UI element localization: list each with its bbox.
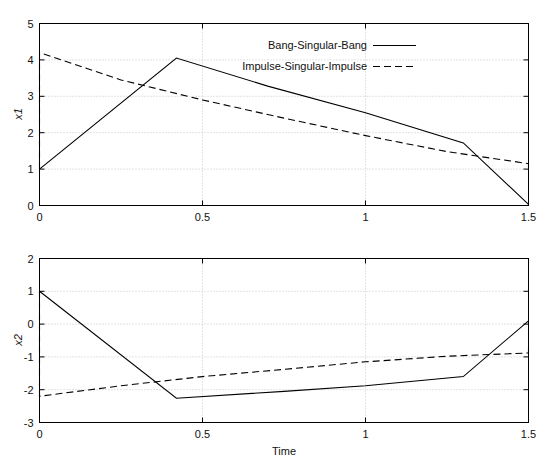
- y-axis-title-x1: x1: [12, 108, 24, 121]
- y-tick-label: -1: [24, 351, 34, 363]
- data-series-solid: [40, 291, 529, 398]
- x-tick-label: 0: [36, 211, 42, 223]
- xtick-labels-x2: 00.511.5: [36, 428, 536, 440]
- y-axis-title-x2: x2: [12, 334, 24, 347]
- y-tick-label: 3: [27, 90, 33, 102]
- y-tick-label: -2: [24, 384, 34, 396]
- tickmarks-x2: [40, 259, 529, 423]
- legend-label-0: Bang-Singular-Bang: [268, 39, 367, 51]
- x-tick-label: 1: [362, 211, 368, 223]
- data-series-solid: [40, 58, 529, 204]
- y-tick-label: 4: [27, 54, 33, 66]
- x-tick-label: 1: [362, 428, 368, 440]
- x-tick-label: 1.5: [521, 428, 536, 440]
- x-tick-label: 0.5: [195, 211, 210, 223]
- subplot-x2: -3-2-1012 00.511.5 x2 Time: [12, 253, 536, 458]
- x-tick-label: 1.5: [521, 211, 536, 223]
- legend-label-1: Impulse-Singular-Impulse: [242, 60, 367, 72]
- axis-frame-x2: [40, 259, 529, 423]
- y-tick-label: -3: [24, 417, 34, 429]
- legend: Bang-Singular-Bang Impulse-Singular-Impu…: [242, 39, 416, 72]
- data-series-dashed: [40, 291, 529, 396]
- ytick-labels-x1: 012345: [27, 18, 33, 212]
- y-tick-label: 0: [27, 318, 33, 330]
- y-tick-label: 1: [27, 285, 33, 297]
- ytick-labels-x2: -3-2-1012: [24, 253, 34, 429]
- y-tick-label: 0: [27, 200, 33, 212]
- y-tick-label: 5: [27, 18, 33, 30]
- y-tick-label: 2: [27, 127, 33, 139]
- y-tick-label: 2: [27, 253, 33, 265]
- gridlines-x2: [40, 259, 529, 423]
- x-tick-label: 0: [36, 428, 42, 440]
- x-axis-title-time: Time: [272, 445, 296, 457]
- series-lines-x1: [40, 53, 529, 205]
- matlab-figure-canvas: 012345 00.511.5 x1 Bang-Singular-Bang Im…: [0, 0, 556, 464]
- x-tick-label: 0.5: [195, 428, 210, 440]
- y-tick-label: 1: [27, 163, 33, 175]
- series-lines-x2: [40, 291, 529, 398]
- xtick-labels-x1: 00.511.5: [36, 211, 536, 223]
